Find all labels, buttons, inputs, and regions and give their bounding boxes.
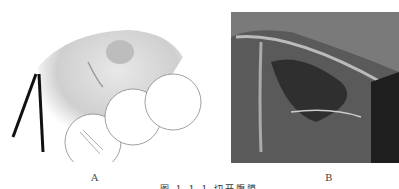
panel-b-label: B — [325, 172, 332, 183]
panel-a-label: A — [91, 172, 98, 183]
figure-panel-b-photo — [231, 12, 399, 163]
figure-caption: 图 1-1-1 切开腹膜 — [160, 183, 258, 189]
figure-panel-a-illustration — [8, 22, 203, 162]
